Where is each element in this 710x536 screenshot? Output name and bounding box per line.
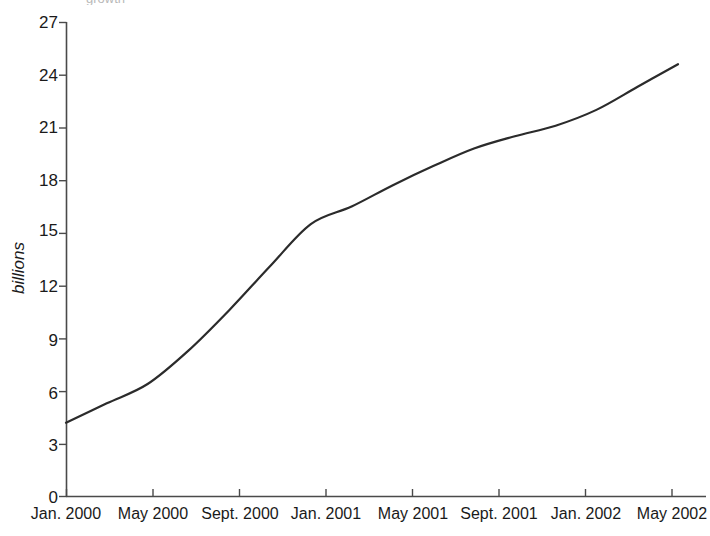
x-axis-tick-label: Jan. 2000 bbox=[31, 505, 101, 523]
x-axis-tick-label: Jan. 2002 bbox=[551, 505, 621, 523]
plot-area bbox=[0, 0, 710, 536]
x-axis-tick-label: May 2000 bbox=[118, 505, 188, 523]
x-axis-tick-label: Jan. 2001 bbox=[291, 505, 361, 523]
axes bbox=[59, 22, 706, 497]
x-axis-tick-label: May 2002 bbox=[637, 505, 707, 523]
x-axis-tick-label: Sept. 2000 bbox=[201, 505, 278, 523]
x-axis-tick-label: May 2001 bbox=[378, 505, 448, 523]
x-axis-tick-label: Sept. 2001 bbox=[460, 505, 537, 523]
chart-figure: growth billions 27 24 21 18 15 12 9 6 3 … bbox=[0, 0, 710, 536]
data-series-line bbox=[66, 64, 678, 423]
